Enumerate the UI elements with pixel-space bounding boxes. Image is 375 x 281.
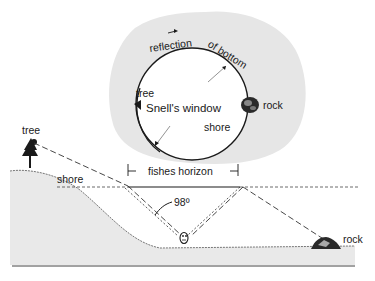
rock-icon-window [241, 97, 259, 113]
label-snells-window: Snell's window [146, 102, 222, 114]
ray-right-refracted-a [188, 187, 240, 235]
diagram-canvas: reflection of bottom tree Snell's window… [0, 0, 375, 281]
label-tree: tree [22, 124, 40, 136]
rock-icon-bottom [311, 237, 341, 249]
label-angle-98: 98º [174, 196, 190, 208]
ray-tree-refracted [128, 186, 181, 235]
ray-right-refracted-b [191, 187, 243, 236]
label-rock: rock [343, 233, 364, 245]
label-window-shore: shore [204, 121, 230, 133]
fish-icon [180, 233, 188, 244]
tree-icon [22, 138, 38, 168]
label-window-rock: rock [263, 99, 284, 111]
label-shore: shore [57, 173, 83, 185]
label-fishes-horizon: fishes horizon [148, 165, 213, 177]
snells-window-diagram: reflection of bottom tree Snell's window… [0, 0, 375, 281]
label-window-tree: tree [136, 87, 154, 99]
ray-shore-refracted [125, 188, 178, 236]
ray-rock-reflected [243, 187, 325, 240]
